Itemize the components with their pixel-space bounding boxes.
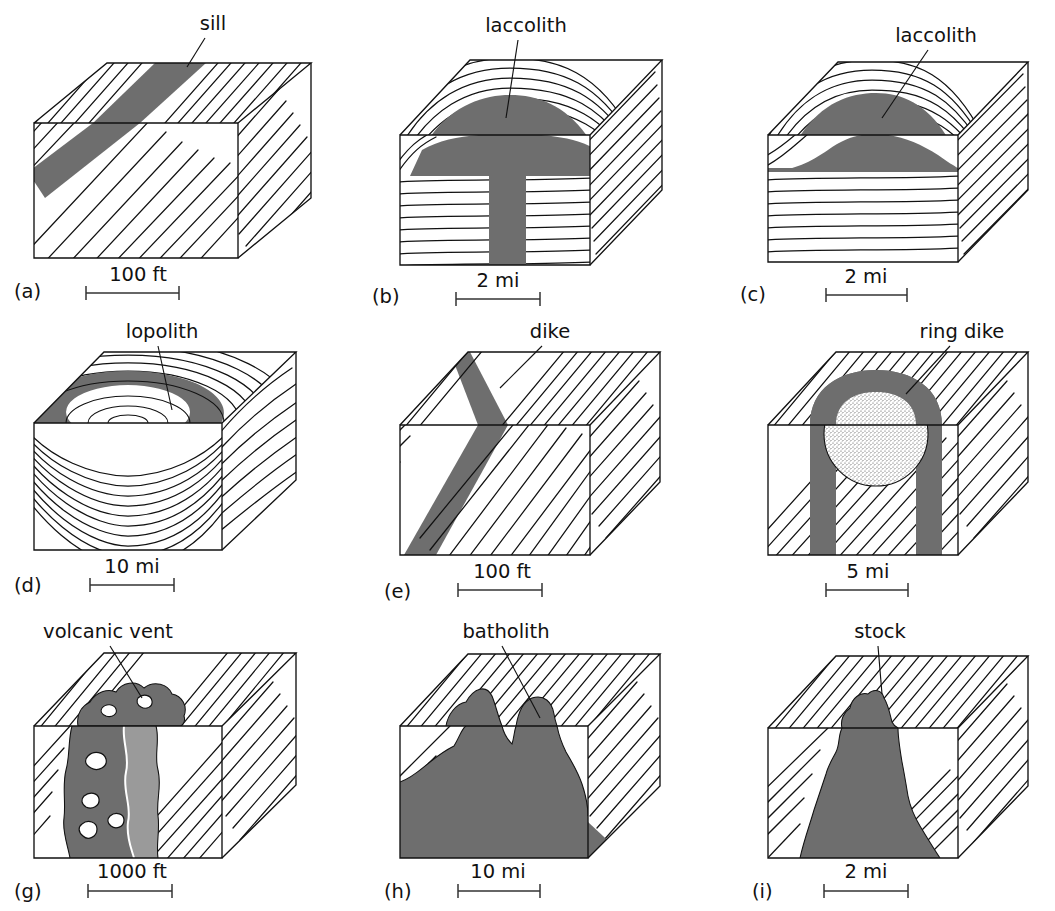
scale-bar: [88, 884, 172, 898]
scale-bar: [458, 583, 542, 597]
scale-label: 2 mi: [844, 265, 887, 288]
panel-letter: (a): [14, 280, 41, 303]
panel-letter: (i): [752, 880, 773, 903]
panel-label-batholith: batholith: [462, 620, 549, 643]
scale-bar: [86, 286, 179, 300]
scale-bar: [826, 583, 908, 597]
panel-label-dike: dike: [530, 320, 570, 343]
panel-letter: (d): [14, 574, 42, 597]
panel-laccolith-feeder: laccolith 2 mi (b): [350, 0, 700, 310]
scale-label: 10 mi: [104, 555, 159, 578]
scale-label: 10 mi: [470, 860, 525, 883]
panel-label-volcanic-vent: volcanic vent: [43, 620, 173, 643]
panel-letter: (e): [384, 580, 411, 603]
panel-lopolith: lopolith 10 mi (d): [0, 310, 350, 610]
panel-label-laccolith: laccolith: [485, 14, 567, 37]
scale-bar: [824, 884, 908, 898]
scale-label: 100 ft: [109, 263, 167, 286]
panel-label-lopolith: lopolith: [126, 320, 199, 343]
panel-sill: sill 100 ft (a): [0, 0, 350, 310]
panel-label-laccolith: laccolith: [895, 24, 977, 47]
panel-ring-dike: ring dike 5 mi: [700, 310, 1055, 610]
igneous-intrusions-figure: sill 100 ft (a): [0, 0, 1055, 911]
scale-label: 2 mi: [476, 269, 519, 292]
panel-batholith: batholith 10 mi (h): [350, 610, 700, 911]
scale-bar: [458, 884, 540, 898]
panel-letter: (g): [14, 880, 42, 903]
panel-label-ring-dike: ring dike: [920, 320, 1005, 343]
scale-label: 1000 ft: [97, 860, 167, 883]
panel-laccolith-flat: laccolith 2 mi (c): [700, 0, 1055, 310]
panel-label-sill: sill: [200, 12, 226, 35]
panel-stock: stock 2 mi (i): [700, 610, 1055, 911]
scale-label: 2 mi: [844, 860, 887, 883]
scale-bar: [90, 578, 174, 592]
scale-label: 5 mi: [846, 560, 889, 583]
scale-bar: [456, 292, 540, 306]
panel-letter: (h): [384, 880, 412, 903]
panel-letter: (b): [372, 285, 400, 308]
panel-dike: dike 100 ft (e): [350, 310, 700, 610]
panel-letter: (c): [740, 283, 766, 306]
panel-label-stock: stock: [854, 620, 906, 643]
panel-volcanic-vent: volcanic vent 1000 ft (g): [0, 610, 350, 911]
scale-label: 100 ft: [473, 560, 531, 583]
scale-bar: [826, 288, 907, 302]
